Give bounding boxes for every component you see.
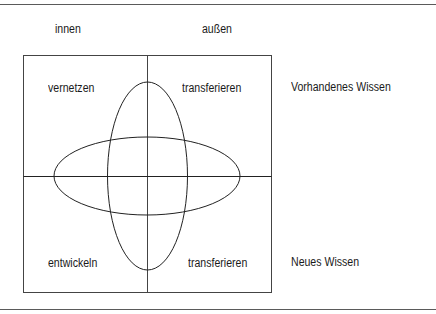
quadrant-bottom-right: transferieren bbox=[188, 256, 247, 270]
quadrant-top-left: vernetzen bbox=[48, 81, 94, 95]
quadrant-bottom-left: entwickeln bbox=[48, 256, 97, 270]
header-outer: außen bbox=[202, 22, 232, 36]
row-label-new-knowledge: Neues Wissen bbox=[291, 255, 359, 269]
header-inner: innen bbox=[55, 22, 81, 36]
quadrant-top-right: transferieren bbox=[182, 81, 241, 95]
row-label-existing-knowledge: Vorhandenes Wissen bbox=[291, 80, 391, 94]
